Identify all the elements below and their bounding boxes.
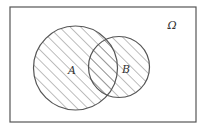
venn-diagram: A B Ω [0,0,208,129]
universe-label: Ω [166,19,176,32]
set-a-label: A [67,64,76,77]
set-b-label: B [121,63,130,76]
